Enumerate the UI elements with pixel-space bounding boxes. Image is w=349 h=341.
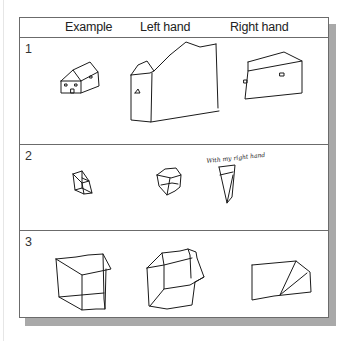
column-right-hand: Right hand [230, 20, 288, 34]
right-hand-house-drawing [244, 52, 302, 99]
right-hand-cube-drawing [219, 165, 235, 203]
figure-frame: Example Left hand Right hand 1 [19, 17, 329, 318]
page-edge [3, 0, 4, 341]
left-hand-house-drawing [131, 42, 219, 122]
table-header: Example Left hand Right hand [20, 18, 328, 38]
column-left-hand: Left hand [140, 20, 190, 34]
right-hand-large-cube-drawing [252, 261, 311, 300]
row-2: 2 With my right hand [20, 145, 328, 231]
row-1: 1 [20, 38, 328, 145]
example-cube-drawing [73, 171, 92, 194]
example-large-cube-drawing [56, 254, 111, 310]
column-example: Example [65, 20, 112, 34]
left-hand-large-cube-drawing [147, 249, 204, 309]
row-3-drawings [20, 231, 328, 318]
row-3: 3 [20, 231, 328, 318]
row-2-drawings [20, 145, 328, 231]
left-hand-cube-drawing [157, 168, 181, 195]
row-1-drawings [20, 38, 328, 144]
example-house-drawing [61, 62, 99, 93]
